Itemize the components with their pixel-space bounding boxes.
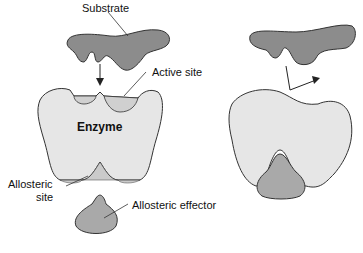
- label-enzyme: Enzyme: [77, 121, 122, 133]
- diagram-canvas: Substrate Active site Enzyme Allosteric …: [0, 0, 363, 253]
- label-allosteric-effector: Allosteric effector: [132, 199, 216, 211]
- label-allosteric-site-1: Allosteric: [8, 178, 53, 190]
- label-substrate: Substrate: [82, 2, 129, 14]
- enzyme-left: [38, 88, 163, 183]
- substrate-left: [67, 30, 169, 71]
- label-active-site: Active site: [152, 66, 202, 78]
- diagram-graphics: [0, 0, 363, 253]
- label-allosteric-site-2: site: [36, 191, 53, 203]
- substrate-right: [250, 25, 356, 65]
